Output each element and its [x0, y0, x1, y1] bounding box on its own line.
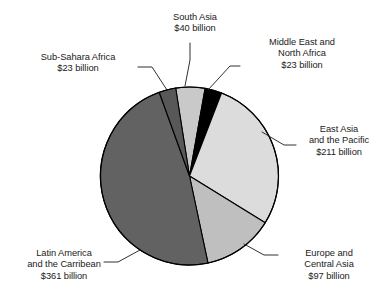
callout-east-asia-value: $211 billion [300, 147, 378, 158]
callout-east-asia-label-1: East Asia [300, 124, 378, 135]
callout-south-asia: South Asia $40 billion [143, 12, 247, 35]
callout-europe-label-1: Europe and [282, 248, 376, 259]
leader-line-south-asia [185, 43, 190, 86]
leader-line-middle-east [208, 66, 240, 90]
callout-europe-label-2: Central Asia [282, 259, 376, 270]
pie-slice-group [100, 87, 278, 265]
callout-latin-america-label-2: and the Carribean [2, 259, 126, 270]
callout-middle-east-value: $23 billion [244, 60, 360, 71]
callout-latin-america-value: $361 billion [2, 271, 126, 282]
callout-east-asia-label-2: and the Pacific [300, 135, 378, 146]
leader-line-sub-sahara [138, 67, 167, 90]
callout-south-asia-label: South Asia [143, 12, 247, 23]
callout-europe-central-asia: Europe and Central Asia $97 billion [282, 248, 376, 282]
callout-sub-sahara-value: $23 billion [14, 63, 142, 74]
callout-south-asia-value: $40 billion [143, 23, 247, 34]
callout-east-asia: East Asia and the Pacific $211 billion [300, 124, 378, 158]
callout-middle-east: Middle East and North Africa $23 billion [244, 37, 360, 71]
leader-line-europe [244, 244, 278, 255]
callout-middle-east-label-2: North Africa [244, 48, 360, 59]
pie-chart-figure: South Asia $40 billion Middle East and N… [0, 0, 378, 297]
callout-sub-sahara-label: Sub-Sahara Africa [14, 52, 142, 63]
callout-latin-america-label-1: Latin America [2, 248, 126, 259]
callout-latin-america: Latin America and the Carribean $361 bil… [2, 248, 126, 282]
callout-europe-value: $97 billion [282, 271, 376, 282]
callout-middle-east-label-1: Middle East and [244, 37, 360, 48]
callout-sub-sahara: Sub-Sahara Africa $23 billion [14, 52, 142, 75]
